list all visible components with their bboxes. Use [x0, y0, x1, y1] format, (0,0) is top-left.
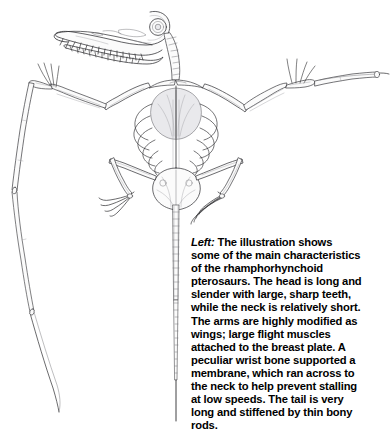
pelvis	[153, 168, 201, 210]
figure-root: Left: The illustration shows some of the…	[0, 0, 390, 441]
caption-body-text: The illustration shows some of the main …	[191, 236, 362, 431]
eye-socket	[150, 19, 167, 36]
caption-text-block: Left: The illustration shows some of the…	[191, 236, 363, 432]
caption-lead-label: Left:	[191, 236, 214, 248]
